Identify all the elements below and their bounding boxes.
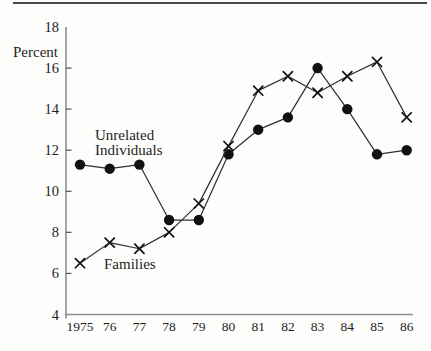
data-point-unrelated-individuals-85: [372, 149, 382, 159]
x-tick-label: 85: [370, 319, 384, 334]
y-tick-label: 18: [45, 19, 60, 35]
x-tick-label: 76: [103, 319, 117, 334]
data-point-unrelated-individuals-81: [253, 124, 263, 134]
data-point-families-85: [372, 57, 381, 66]
series-label-unrelated-individuals-line2: Individuals: [95, 142, 163, 158]
data-point-families-1975: [75, 259, 84, 268]
x-tick-label: 86: [400, 319, 414, 334]
y-axis-label: Percent: [13, 44, 59, 60]
data-point-unrelated-individuals-86: [402, 145, 412, 155]
data-point-unrelated-individuals-77: [134, 159, 144, 169]
y-tick-label: 12: [45, 142, 60, 158]
data-point-families-78: [165, 228, 174, 237]
data-point-families-83: [313, 88, 322, 97]
x-tick-label: 84: [341, 319, 355, 334]
x-tick-label: 1975: [67, 319, 94, 334]
y-tick-label: 4: [52, 307, 60, 323]
data-point-families-79: [194, 199, 203, 208]
data-point-unrelated-individuals-82: [283, 112, 293, 122]
x-tick-label: 80: [222, 319, 236, 334]
data-point-unrelated-individuals-76: [105, 163, 115, 173]
y-tick-label: 10: [45, 183, 60, 199]
series-label-unrelated-individuals-line1: Unrelated: [95, 127, 155, 143]
data-point-families-86: [402, 113, 411, 122]
x-tick-label: 81: [251, 319, 265, 334]
x-tick-label: 79: [192, 319, 206, 334]
data-point-families-76: [105, 238, 114, 247]
data-point-families-81: [254, 86, 263, 95]
x-tick-label: 77: [133, 319, 147, 334]
data-point-unrelated-individuals-83: [312, 63, 322, 73]
line-chart: 181614121086419757677787980818283848586P…: [0, 0, 431, 351]
data-point-families-84: [343, 72, 352, 81]
x-tick-label: 78: [162, 319, 176, 334]
data-point-unrelated-individuals-79: [194, 215, 204, 225]
y-tick-label: 8: [52, 224, 59, 240]
x-tick-label: 83: [311, 319, 325, 334]
y-tick-label: 14: [45, 101, 60, 117]
y-tick-label: 6: [52, 265, 59, 281]
figure-page: 181614121086419757677787980818283848586P…: [0, 0, 431, 351]
data-point-unrelated-individuals-78: [164, 215, 174, 225]
data-point-families-82: [283, 72, 292, 81]
data-point-unrelated-individuals-84: [342, 104, 352, 114]
data-point-families-77: [135, 244, 144, 253]
x-tick-label: 82: [281, 319, 295, 334]
data-point-unrelated-individuals-1975: [75, 159, 85, 169]
y-tick-label: 16: [45, 60, 60, 76]
series-label-families: Families: [104, 256, 156, 272]
series-line-families: [80, 62, 407, 263]
